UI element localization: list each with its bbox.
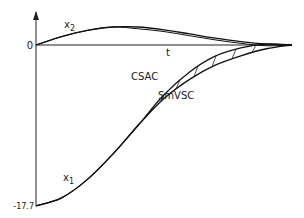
label-x1: x1 xyxy=(63,172,74,186)
annotation-smvsc: SmVSC xyxy=(158,90,194,101)
x-axis-label: t xyxy=(166,47,170,58)
series-x1-csac xyxy=(36,44,292,206)
y-axis-arrow-icon xyxy=(33,11,39,20)
annotation-csac: CSAC xyxy=(131,71,158,82)
label-x2: x2 xyxy=(64,19,75,33)
series-x1-smvsc xyxy=(36,45,292,206)
chart: 0 -17.7 t x2 x1 CSAC SmVSC xyxy=(0,0,304,218)
y-tick-label-zero: 0 xyxy=(27,40,33,51)
y-tick-label-min: -17.7 xyxy=(13,202,34,211)
